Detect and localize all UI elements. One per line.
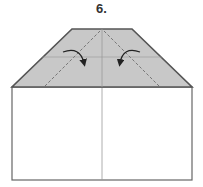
origami-diagram [0,0,203,187]
